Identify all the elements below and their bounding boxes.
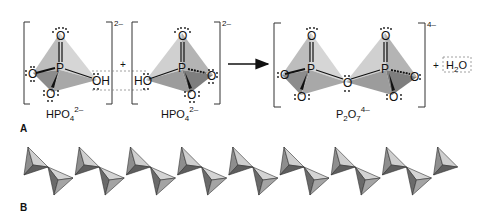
atom-o: O	[297, 90, 306, 104]
atom-o: O	[389, 90, 398, 104]
panel-label-b: B	[20, 202, 27, 213]
plus-sign: +	[120, 59, 126, 70]
atom-o-bridge: O	[343, 76, 352, 90]
atom-o-bottom: O	[46, 87, 55, 101]
atom-o-top: O	[178, 29, 187, 43]
atom-o: O	[307, 29, 316, 43]
atom-o-top: O	[56, 29, 65, 43]
tetrahedra-chain	[24, 147, 458, 195]
atom-o: O	[381, 29, 390, 43]
atom-p: P	[178, 61, 186, 75]
atom-o-bottom: O	[187, 88, 196, 102]
atom-o: O	[410, 70, 419, 84]
charge-label: 2–	[222, 19, 231, 28]
atom-o-right: O	[207, 69, 216, 83]
formula-label: P2O74–	[336, 105, 370, 123]
right-bracket	[214, 22, 220, 104]
plus-sign: +	[433, 60, 439, 71]
formula-label: HPO42–	[161, 105, 199, 123]
left-bracket	[274, 23, 281, 107]
reactant-2-hpo4: O P O O HO 2– HPO42–	[132, 19, 231, 123]
charge-label: 4–	[427, 20, 436, 29]
atom-p: P	[307, 62, 315, 76]
product-p2o7: O P O O O O P O O 4– P2O74–	[274, 20, 436, 123]
diagram-canvas: O P O O OH 2– HPO42– +	[0, 0, 483, 222]
left-bracket	[24, 22, 30, 104]
atom-p: P	[381, 62, 389, 76]
atom-o: O	[280, 68, 289, 82]
formula-label: HPO42–	[46, 105, 84, 123]
left-bracket	[132, 22, 138, 104]
panel-label-a: A	[20, 123, 27, 134]
right-bracket	[418, 23, 425, 107]
charge-label: 2–	[114, 19, 123, 28]
water-byproduct: H2O	[443, 57, 471, 74]
atom-oh: OH	[92, 74, 110, 88]
right-bracket	[106, 22, 112, 104]
atom-o-left: O	[28, 67, 37, 81]
atom-p: P	[56, 61, 64, 75]
atom-ho: HO	[134, 74, 152, 88]
